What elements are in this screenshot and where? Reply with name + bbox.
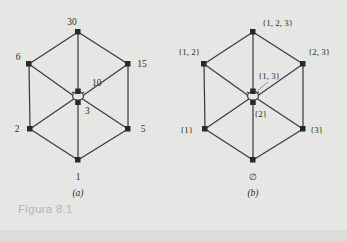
node-b-top-label: {1, 2, 3} (262, 18, 293, 28)
node-b-upper-right (300, 61, 306, 67)
node-b-center-upper (250, 89, 256, 95)
node-b-center-lower (250, 100, 256, 106)
edge-b-bottom-lowerleft (205, 129, 253, 160)
node-b-upper-left (201, 61, 207, 67)
node-b-upper-left-label: {1, 2} (178, 47, 200, 57)
node-b-lower-right (300, 126, 306, 132)
node-b-top (250, 29, 256, 35)
node-b-lower-left (202, 126, 208, 132)
page-bottom-strip (0, 230, 347, 242)
edge-b-bottom-lowerright (253, 129, 303, 160)
node-b-bottom-label: ∅ (249, 172, 257, 182)
node-b-center-upper-label: {1, 3} (258, 71, 280, 81)
edge-b-upperleft-top (204, 32, 253, 64)
figure-area: 30 6 15 10 3 2 5 1 (a) (0, 0, 347, 195)
edge-b-center-upperleft (204, 64, 253, 99)
sublabel-b: (b) (247, 188, 258, 199)
edge-b-center-upperright (253, 64, 303, 99)
node-b-upper-right-label: {2, 3} (308, 47, 330, 57)
hasse-diagram-b: {1, 2, 3} {1, 2} {2, 3} {1, 3} {2} {1} {… (0, 0, 347, 195)
node-b-center-lower-label: {2} (254, 109, 267, 119)
node-b-bottom (250, 157, 256, 163)
figure-page: 30 6 15 10 3 2 5 1 (a) (0, 0, 347, 242)
edge-b-upperright-top (253, 32, 303, 64)
edge-b-lowerleft-upperleft (204, 64, 205, 129)
node-b-lower-left-label: {1} (180, 125, 193, 135)
figure-caption: Figura 8.1 (18, 203, 73, 215)
node-b-lower-right-label: {3} (310, 125, 323, 135)
